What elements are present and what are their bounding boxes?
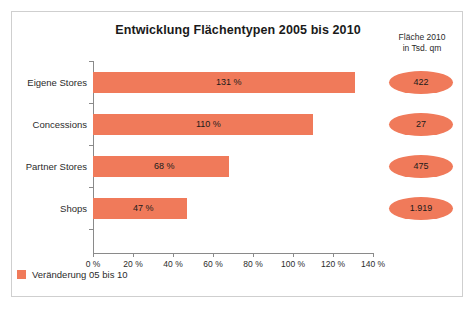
x-axis-tick <box>373 253 374 257</box>
bar-value-label: 47 % <box>133 198 154 219</box>
legend-color-swatch <box>17 270 26 279</box>
category-label: Concessions <box>9 114 87 135</box>
chart-frame: Entwicklung Flächentypen 2005 bis 2010 0… <box>11 11 463 297</box>
x-axis-tick <box>173 253 174 257</box>
bubble-header-line2: in Tsd. qm <box>380 43 464 54</box>
bubble-eigene-stores[interactable]: 422 <box>389 71 453 94</box>
x-axis-label: 100 % <box>273 259 313 269</box>
x-axis-label: 80 % <box>233 259 273 269</box>
bubble-shops[interactable]: 1.919 <box>389 197 453 220</box>
x-axis-label: 120 % <box>313 259 353 269</box>
x-axis-tick <box>333 253 334 257</box>
bubble-header-line1: Fläche 2010 <box>380 32 464 43</box>
category-label: Eigene Stores <box>9 72 87 93</box>
x-axis-line <box>93 253 373 254</box>
bubble-partner-stores[interactable]: 475 <box>389 155 453 178</box>
x-axis-tick <box>133 253 134 257</box>
y-axis-tick <box>89 103 93 104</box>
bubble-column-header: Fläche 2010 in Tsd. qm <box>380 32 464 54</box>
x-axis-tick <box>213 253 214 257</box>
bar-value-label: 110 % <box>196 114 221 135</box>
x-axis-tick <box>93 253 94 257</box>
legend-label: Veränderung 05 bis 10 <box>32 269 128 280</box>
x-axis-label: 0 % <box>73 259 113 269</box>
plot-area: 0 % 20 % 40 % 60 % 80 % 100 % 120 % 140 … <box>93 61 373 253</box>
y-axis-tick <box>89 187 93 188</box>
x-axis-label: 60 % <box>193 259 233 269</box>
chart-screenshot: Entwicklung Flächentypen 2005 bis 2010 0… <box>0 0 475 311</box>
bar-value-label: 131 % <box>216 72 242 93</box>
x-axis-tick <box>293 253 294 257</box>
bubble-concessions[interactable]: 27 <box>389 113 453 136</box>
y-axis-tick <box>89 145 93 146</box>
x-axis-tick <box>253 253 254 257</box>
area-bubble-column: Fläche 2010 in Tsd. qm 422 27 475 1.919 <box>380 32 464 262</box>
bar-value-label: 68 % <box>154 156 175 177</box>
legend: Veränderung 05 bis 10 <box>17 269 128 280</box>
category-label: Shops <box>9 198 87 219</box>
y-axis-tick <box>89 61 93 62</box>
category-label: Partner Stores <box>9 156 87 177</box>
x-axis-label: 40 % <box>153 259 193 269</box>
y-axis-tick <box>89 229 93 230</box>
x-axis-label: 20 % <box>113 259 153 269</box>
